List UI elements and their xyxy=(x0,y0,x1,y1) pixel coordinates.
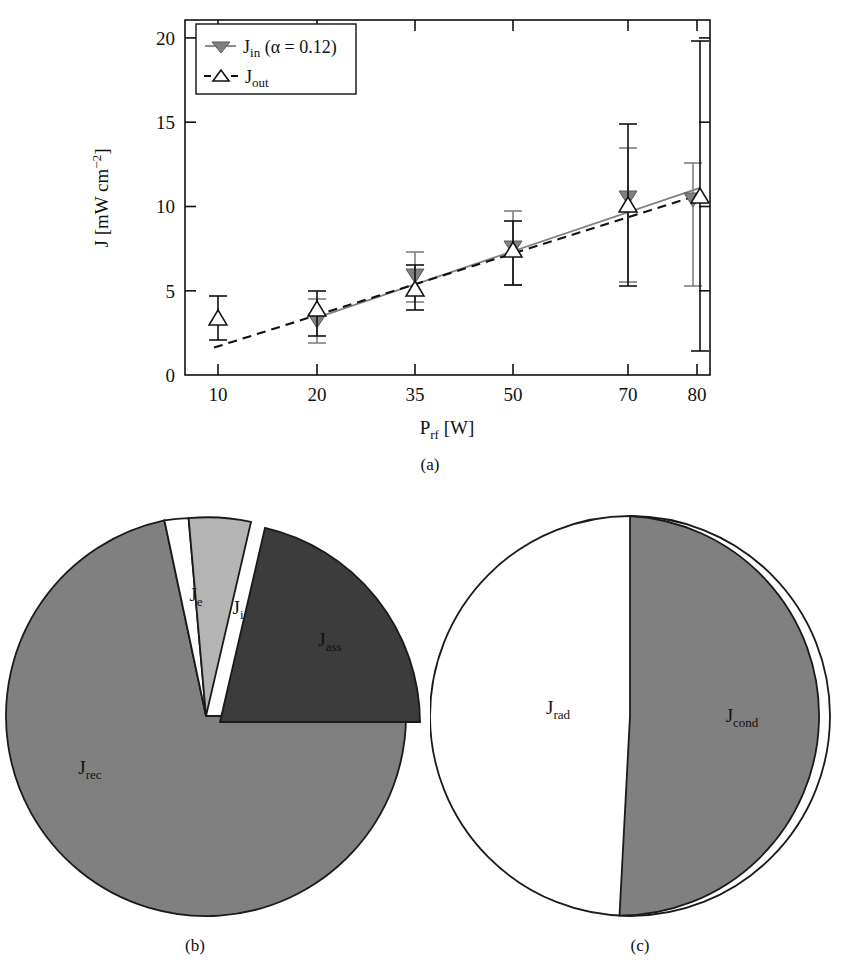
x-axis-title-unit: [W] xyxy=(439,417,474,438)
pie-b-label-ji-subscript: i xyxy=(240,607,244,622)
subcaption-c: (c) xyxy=(600,936,680,956)
pie-b-label-jass-subscript: ass xyxy=(326,639,342,654)
subcaption-b: (b) xyxy=(155,936,235,956)
pie-b-label-je-subscript: e xyxy=(197,594,203,609)
pie-b-label-jrec-subscript: rec xyxy=(86,767,102,782)
svg-text:J [mW cm−2]: J [mW cm−2] xyxy=(89,149,112,248)
subcaption-a: (a) xyxy=(390,455,470,475)
pie-b-slices xyxy=(6,517,420,916)
pie-b-label-jass-base: J xyxy=(318,629,325,650)
y-axis-title-exponent: −2 xyxy=(89,155,104,169)
panel-c-svg: Jrad Jcond xyxy=(430,486,859,934)
y-axis-title: J [mW cm−2] xyxy=(89,149,112,248)
legend-jout-subscript: out xyxy=(252,75,269,90)
y-axis-title-tail: ] xyxy=(91,149,112,155)
legend-box xyxy=(196,24,356,94)
x-axis-title-base: P xyxy=(420,417,431,438)
y-tick-labels: 20 15 10 5 0 xyxy=(156,28,175,386)
legend-jin-subscript: in xyxy=(250,45,261,60)
figure-root: 20 15 10 5 0 J [mW cm−2] xyxy=(0,0,859,977)
panel-c-pie-chart: Jrad Jcond xyxy=(430,486,859,934)
x-tick-label-70: 70 xyxy=(619,384,638,405)
x-tick-labels: 10 20 35 50 70 80 xyxy=(209,384,707,405)
y-tick-label-0: 0 xyxy=(166,365,176,386)
x-tick-label-10: 10 xyxy=(209,384,228,405)
legend: Jin (α = 0.12) Jout xyxy=(196,24,356,94)
y-tick-label-20: 20 xyxy=(156,28,175,49)
pie-c-label-jrad-subscript: rad xyxy=(553,707,570,722)
y-tick-label-5: 5 xyxy=(166,281,176,302)
pie-b-slice-jass xyxy=(220,528,420,722)
y-tick-label-15: 15 xyxy=(156,112,175,133)
pie-b-label-jrec-base: J xyxy=(78,757,85,778)
pie-c-slice-jcond xyxy=(620,516,820,916)
x-axis-title: Prf [W] xyxy=(420,417,475,442)
panel-a-line-chart: 20 15 10 5 0 J [mW cm−2] xyxy=(0,0,859,465)
pie-b-label-ji: Ji xyxy=(232,597,243,622)
x-tick-label-50: 50 xyxy=(504,384,523,405)
y-tick-label-10: 10 xyxy=(156,196,175,217)
pie-c-label-jcond-base: J xyxy=(726,705,733,726)
svg-text:Prf [W]: Prf [W] xyxy=(420,417,475,442)
pie-b-slice-jass-group xyxy=(220,528,420,722)
x-tick-label-80: 80 xyxy=(688,384,707,405)
legend-jout-base: J xyxy=(245,67,252,87)
pie-c-label-jcond-subscript: cond xyxy=(733,715,759,730)
panel-a-svg: 20 15 10 5 0 J [mW cm−2] xyxy=(0,0,859,465)
y-axis-title-base: J [mW cm xyxy=(91,168,112,247)
legend-jin-suffix: (α = 0.12) xyxy=(260,37,337,58)
panel-b-svg: Je Ji Jass Jrec xyxy=(0,486,430,934)
pie-b-label-je-base: J xyxy=(189,584,196,605)
panel-b-pie-chart: Je Ji Jass Jrec xyxy=(0,486,430,934)
x-tick-label-35: 35 xyxy=(406,384,425,405)
x-tick-label-20: 20 xyxy=(308,384,327,405)
legend-jin-base: J xyxy=(243,37,250,57)
pie-c-label-jrad-base: J xyxy=(546,697,553,718)
pie-b-label-ji-base: J xyxy=(232,597,239,618)
pie-c-slices xyxy=(430,516,830,916)
